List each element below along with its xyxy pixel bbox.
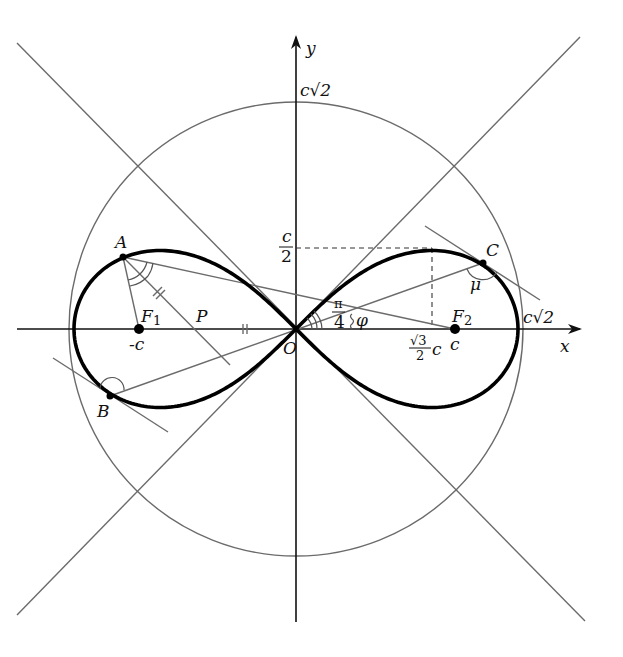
label-pi-numerator: π — [334, 296, 343, 311]
label-pi-denominator: 4 — [334, 312, 345, 332]
label-focus-F1: F — [140, 306, 154, 326]
segment-A-F1 — [123, 257, 139, 329]
label-focus-F2: F — [451, 306, 465, 326]
lemniscate-diagram: y x O c√2 c√2 c 2 √3 2 c π 4 φ μ A B C P… — [0, 0, 623, 657]
angle-arc-A-right2 — [148, 263, 153, 276]
x-axis-label: x — [560, 336, 570, 356]
label-point-P: P — [195, 306, 208, 326]
label-sqrt3-denominator: 2 — [416, 348, 424, 363]
label-sqrt3-numerator: √3 — [410, 333, 427, 348]
point-B — [107, 393, 114, 400]
angle-arc-A-right — [140, 262, 147, 274]
y-axis-label: y — [305, 38, 316, 58]
segment-A-F2 — [123, 257, 455, 329]
label-point-C: C — [486, 240, 499, 260]
angle-arc-phi — [351, 314, 354, 329]
label-mu: μ — [470, 274, 481, 294]
point-A — [120, 254, 127, 261]
angle-arc-A-inner — [128, 274, 140, 280]
label-focus-F2-sub: 2 — [464, 313, 472, 328]
label-half-c-denominator: 2 — [281, 246, 292, 266]
label-sqrt3-c: c — [432, 339, 442, 359]
label-focus-F1-sub: 1 — [153, 313, 161, 328]
label-phi: φ — [356, 310, 368, 330]
origin-point — [294, 327, 299, 332]
angle-arc-A-outer — [130, 276, 148, 286]
label-point-B: B — [96, 401, 110, 421]
label-plus-c: c — [450, 334, 460, 354]
label-y-top-c-sqrt2: c√2 — [300, 80, 331, 100]
point-C — [480, 260, 487, 267]
label-x-right-c-sqrt2: c√2 — [523, 307, 554, 327]
label-point-A: A — [113, 232, 127, 252]
label-minus-c: -c — [129, 334, 145, 354]
label-half-c-numerator: c — [282, 226, 292, 246]
origin-label: O — [283, 338, 297, 358]
